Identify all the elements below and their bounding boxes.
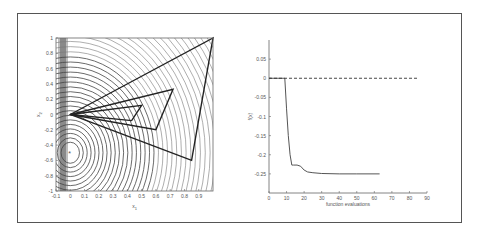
- x-tick-label: 0.6: [152, 193, 159, 199]
- y-axis-label: f(x): [247, 113, 253, 121]
- y-tick-label: -0.6: [44, 157, 53, 163]
- x-axis-label: function evaluations: [326, 201, 371, 207]
- x-tick-label: 20: [301, 195, 307, 201]
- x-tick-label: 80: [407, 195, 413, 201]
- convergence-plot: 01020304050607080900.050-0.05-0.1-0.15-0…: [247, 40, 430, 207]
- y-axis-label: x2: [35, 111, 43, 117]
- y-tick-label: 0.8: [46, 50, 53, 56]
- left-axes-box: [56, 38, 213, 191]
- y-tick-label: 1: [50, 35, 53, 41]
- contour-plot: *-0.100.10.20.30.40.50.60.70.80.910.80.6…: [0, 0, 367, 234]
- x-tick-label: 90: [424, 195, 430, 201]
- x-tick-label: 0.7: [167, 193, 174, 199]
- x-tick-label: 0.9: [195, 193, 202, 199]
- figure: *-0.100.10.20.30.40.50.60.70.80.910.80.6…: [0, 0, 480, 234]
- y-tick-label: 0: [50, 112, 53, 118]
- x-tick-label: 0.8: [181, 193, 188, 199]
- y-tick-label: -0.25: [255, 171, 267, 177]
- y-tick-label: -1: [49, 188, 54, 194]
- x-tick-label: 0: [268, 195, 271, 201]
- x-tick-label: 0.3: [110, 193, 117, 199]
- x-tick-label: 0.2: [95, 193, 102, 199]
- y-tick-label: -0.4: [44, 142, 53, 148]
- y-tick-label: -0.1: [257, 114, 266, 120]
- y-tick-label: 0: [263, 75, 266, 81]
- y-tick-label: 0.2: [46, 96, 53, 102]
- y-tick-label: -0.05: [255, 94, 267, 100]
- x-tick-label: 70: [389, 195, 395, 201]
- y-tick-label: -0.8: [44, 173, 53, 179]
- y-tick-label: 0.6: [46, 66, 53, 72]
- x-tick-label: 0.1: [81, 193, 88, 199]
- x-tick-label: 0: [69, 193, 72, 199]
- y-tick-label: 0.05: [256, 56, 266, 62]
- x-tick-label: 30: [319, 195, 325, 201]
- x-tick-label: 0.5: [138, 193, 145, 199]
- x-tick-label: 0.4: [124, 193, 131, 199]
- y-tick-label: -0.2: [257, 152, 266, 158]
- y-tick-label: -0.15: [255, 133, 267, 139]
- x-tick-label: 10: [284, 195, 290, 201]
- minimum-marker: *: [68, 150, 71, 157]
- x-tick-label: 60: [372, 195, 378, 201]
- y-tick-label: 0.4: [46, 81, 53, 87]
- x-axis-label: x1: [132, 203, 138, 211]
- x-tick-label: -0.1: [52, 193, 61, 199]
- fx-curve: [269, 78, 380, 174]
- y-tick-label: -0.2: [44, 127, 53, 133]
